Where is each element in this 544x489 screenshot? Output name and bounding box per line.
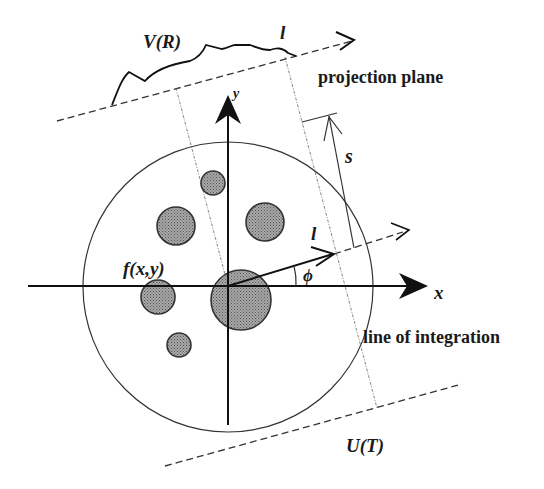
label-object-function: f(x,y) <box>123 258 165 280</box>
label-y-axis: y <box>231 86 240 101</box>
label-projection-plane: projection plane <box>318 67 443 87</box>
projection-diagram: V(R) l projection plane y s l ϕ x f(x,y)… <box>0 0 544 489</box>
distance-s-marker <box>302 113 354 248</box>
projection-profile-curve <box>112 45 296 105</box>
label-line-of-integration: line of integration <box>363 327 500 347</box>
label-rotated-axis: l <box>311 223 317 244</box>
label-projection-axis-top: l <box>280 22 286 43</box>
label-distance: s <box>344 145 353 167</box>
label-angle: ϕ <box>303 266 313 285</box>
label-x-axis: x <box>433 282 444 303</box>
y-axis <box>215 95 241 425</box>
label-projection-profile: V(R) <box>143 31 181 53</box>
bottom-projection-line <box>165 384 462 466</box>
label-bottom-profile: U(T) <box>346 435 384 457</box>
projection-ray-right <box>285 57 377 408</box>
angle-arc <box>294 266 296 286</box>
